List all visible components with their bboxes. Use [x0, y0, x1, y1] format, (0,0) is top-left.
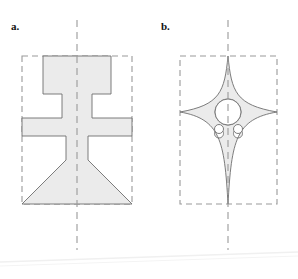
panel-b-small-hole-left [215, 125, 224, 134]
panel-label-b: b. [161, 21, 170, 32]
panel-b-small-hole-right [234, 125, 243, 134]
background [0, 0, 298, 279]
figure-canvas [0, 0, 298, 279]
panel-label-a: a. [11, 21, 19, 32]
